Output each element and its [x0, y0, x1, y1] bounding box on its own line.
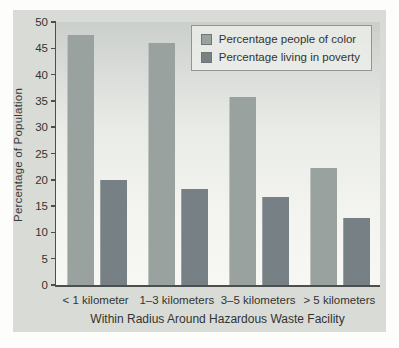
y-tick-35: 35	[22, 95, 56, 107]
y-tick-label: 25	[22, 148, 48, 160]
plot-area: 05101520253035404550 Percentage people o…	[55, 22, 380, 287]
y-tick-45: 45	[22, 42, 56, 54]
legend-label: Percentage living in poverty	[219, 51, 360, 63]
legend-item-1: Percentage people of color	[201, 33, 360, 45]
legend-item-2: Percentage living in poverty	[201, 51, 360, 63]
x-category-label-4: > 5 kilometers	[299, 294, 380, 306]
y-tick-label: 20	[22, 174, 48, 186]
y-tick-label: 50	[22, 16, 48, 28]
y-tick-30: 30	[22, 121, 56, 133]
legend-swatch-icon	[201, 34, 212, 45]
y-tick-5: 5	[22, 253, 56, 265]
y-tick-label: 40	[22, 69, 48, 81]
y-tick-10: 10	[22, 226, 56, 238]
bar-living-in-poverty-3	[262, 197, 289, 285]
y-tick-25: 25	[22, 148, 56, 160]
y-tick-40: 40	[22, 69, 56, 81]
x-category-label-1: < 1 kilometer	[55, 294, 136, 306]
bar-living-in-poverty-2	[181, 189, 208, 285]
bar-people-of-color-4	[310, 168, 337, 285]
y-tick-label: 0	[22, 279, 48, 291]
legend: Percentage people of colorPercentage liv…	[191, 25, 372, 71]
legend-swatch-icon	[201, 52, 212, 63]
x-axis-title: Within Radius Around Hazardous Waste Fac…	[55, 312, 380, 326]
y-tick-label: 30	[22, 121, 48, 133]
bar-people-of-color-3	[229, 97, 256, 285]
bar-people-of-color-2	[148, 43, 175, 285]
x-axis-category-labels: < 1 kilometer1–3 kilometers3–5 kilometer…	[55, 294, 380, 306]
y-tick-label: 35	[22, 95, 48, 107]
y-tick-20: 20	[22, 174, 56, 186]
y-tick-label: 10	[22, 226, 48, 238]
y-tick-50: 50	[22, 16, 56, 28]
bar-people-of-color-1	[67, 35, 94, 285]
bar-living-in-poverty-1	[100, 180, 127, 285]
bar-living-in-poverty-4	[343, 218, 370, 285]
legend-label: Percentage people of color	[219, 33, 356, 45]
y-tick-label: 5	[22, 253, 48, 265]
bar-group-1	[56, 22, 137, 285]
y-tick-15: 15	[22, 200, 56, 212]
y-tick-label: 15	[22, 200, 48, 212]
y-tick-label: 45	[22, 42, 48, 54]
chart-panel: Percentage of Population 051015202530354…	[13, 10, 386, 332]
x-category-label-3: 3–5 kilometers	[218, 294, 299, 306]
x-category-label-2: 1–3 kilometers	[136, 294, 217, 306]
y-tick-0: 0	[22, 279, 56, 291]
